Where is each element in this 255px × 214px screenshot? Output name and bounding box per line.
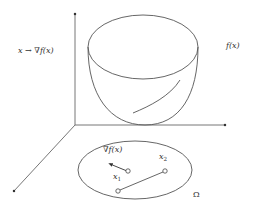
bowl-rim <box>88 15 198 79</box>
diagram-graphics <box>0 0 255 214</box>
x2-subscript: 2 <box>164 156 168 162</box>
gradient-map-label: x → ∇f(x) <box>18 47 54 55</box>
gradient-label: ∇f(x) <box>103 146 122 154</box>
domain-ellipse <box>78 141 192 199</box>
segment-point-start <box>116 189 120 193</box>
gradient-arrow <box>110 164 127 171</box>
bowl-side <box>88 47 198 125</box>
point-x1-label: x1 <box>113 173 121 183</box>
function-text: f(x) <box>226 41 240 50</box>
point-x1-marker <box>126 169 130 173</box>
domain-label: Ω <box>193 191 200 199</box>
depth-axis <box>14 125 75 191</box>
omega-text: Ω <box>193 190 200 199</box>
bowl-inner-curve <box>133 80 180 113</box>
gradient-map-text: x → ∇f(x) <box>18 46 54 55</box>
x1-subscript: 1 <box>118 176 122 182</box>
point-x2-label: x2 <box>159 153 167 163</box>
segment-line <box>120 172 163 190</box>
gradient-text: ∇f(x) <box>103 145 122 154</box>
point-x2-marker <box>163 169 167 173</box>
function-label: f(x) <box>226 42 240 50</box>
convex-function-diagram: x → ∇f(x) f(x) ∇f(x) x1 x2 Ω <box>0 0 255 214</box>
